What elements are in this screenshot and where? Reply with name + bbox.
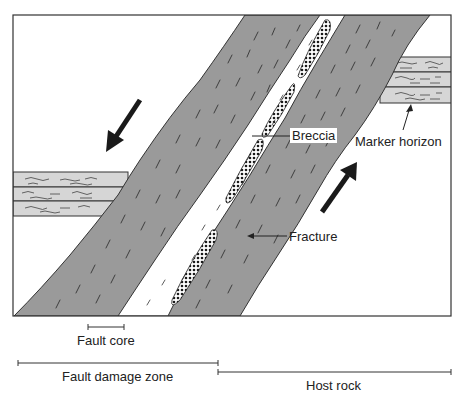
- fault-core-scale-bar: [88, 324, 124, 330]
- host-rock-label: Host rock: [306, 379, 361, 392]
- fault-damage-zone-label: Fault damage zone: [62, 370, 173, 383]
- breccia-label: Breccia: [290, 128, 337, 143]
- fault-core-label: Fault core: [77, 334, 135, 347]
- fault-zone-diagram: [0, 0, 468, 403]
- host-rock-scale-bar: [218, 369, 451, 375]
- arrow-left-block-down-icon: [106, 100, 140, 152]
- fracture-label: Fracture: [289, 230, 337, 243]
- marker-horizon-leader: [403, 104, 413, 130]
- marker-horizon-label: Marker horizon: [355, 135, 442, 148]
- fault-damage-zone-scale-bar: [18, 360, 218, 366]
